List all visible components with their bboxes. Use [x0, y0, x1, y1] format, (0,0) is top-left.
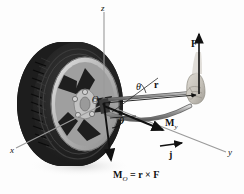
figure-canvas	[0, 0, 244, 194]
equation-equals: =	[130, 169, 136, 180]
force-vector-label: F	[191, 39, 197, 49]
equation-lhs-subscript: O	[122, 175, 127, 183]
moment-y-subscript: y	[174, 123, 177, 131]
equation-r: r	[138, 169, 142, 180]
unit-vector-j-label: j	[169, 150, 172, 160]
origin-label: O	[92, 95, 99, 104]
moment-y-vector-label: My	[165, 118, 178, 131]
unit-vector-j-arrow	[160, 143, 182, 146]
theta-upper-label: θ	[136, 82, 141, 92]
axis-y-label: y	[228, 148, 232, 157]
origin-point	[102, 102, 105, 105]
moment-equation: MO = r × F	[113, 170, 159, 183]
position-vector-label: r	[154, 80, 158, 90]
hand-gripping-wrench	[186, 52, 205, 104]
axis-x-label: x	[10, 146, 14, 155]
theta-lower-label: θ	[119, 116, 124, 126]
axis-z-label: z	[101, 4, 105, 13]
moment-vector-figure: z x y O θ θ r F My j MO = r × F	[0, 0, 244, 194]
equation-f: F	[153, 169, 159, 180]
equation-cross: ×	[145, 169, 151, 180]
